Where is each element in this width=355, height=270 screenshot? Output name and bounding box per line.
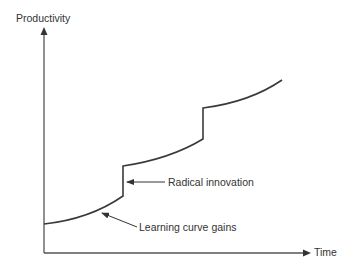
y-axis-arrow-icon <box>41 27 48 35</box>
y-axis <box>41 27 48 253</box>
productivity-diagram: Productivity Time Radical innovation Lea… <box>0 0 355 270</box>
x-axis-label: Time <box>314 246 337 258</box>
x-axis-arrow-icon <box>303 250 311 257</box>
learning-curve-gains-label: Learning curve gains <box>139 221 236 233</box>
x-axis <box>44 250 311 257</box>
productivity-curve <box>44 80 282 224</box>
learning-curve-leader <box>102 213 137 227</box>
y-axis-label: Productivity <box>16 12 70 24</box>
radical-innovation-label: Radical innovation <box>168 176 254 188</box>
